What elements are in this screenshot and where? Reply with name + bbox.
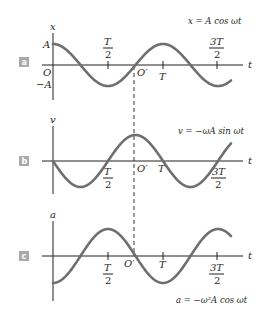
three-half-T-denominator: 2 xyxy=(215,179,221,190)
three-half-T-numerator: 3T xyxy=(210,36,224,47)
origin-label: O xyxy=(43,67,51,78)
three-half-T-denominator: 2 xyxy=(214,49,220,60)
half-T-denominator: 2 xyxy=(105,275,111,286)
T-label: T xyxy=(159,259,167,270)
three-half-T-numerator: 3T xyxy=(210,262,224,273)
badge-a-label: a xyxy=(22,58,27,67)
equation-label: x = A cos ωt xyxy=(188,16,242,26)
o-prime-label: O′ xyxy=(137,67,148,78)
half-T-numerator: T xyxy=(104,166,112,177)
badge-c-label: c xyxy=(22,252,27,261)
o-prime-label: O′ xyxy=(124,258,135,269)
t-axis-label: t xyxy=(248,250,253,261)
half-T-numerator: T xyxy=(104,36,112,47)
y-axis-label: v xyxy=(50,114,56,125)
half-T-denominator: 2 xyxy=(105,179,111,190)
y-axis-label: x xyxy=(50,21,56,32)
amplitude-positive-label: A xyxy=(42,39,50,50)
half-T-numerator: T xyxy=(104,262,112,273)
equation-label: v = −ωA sin ωt xyxy=(178,126,244,136)
y-axis-label: a xyxy=(50,209,56,220)
amplitude-negative-label: −A xyxy=(36,79,52,90)
half-T-denominator: 2 xyxy=(105,49,111,60)
panel-a-position: a x t A O −A T 2 T O′ 3T 2 x = A cos ωt xyxy=(19,16,253,100)
panel-c-acceleration: c a t T 2 O′ T 3T 2 a = −ω²A cos ωt xyxy=(19,209,253,305)
equation-label: a = −ω²A cos ωt xyxy=(176,295,248,305)
panel-b-velocity: b v t T 2 O′ T 3T 2 v = −ωA sin ωt xyxy=(19,114,253,194)
t-axis-label: t xyxy=(248,155,253,166)
shm-graphs-figure: a x t A O −A T 2 T O′ 3T 2 x = A cos ωt … xyxy=(0,0,267,325)
three-half-T-denominator: 2 xyxy=(214,275,220,286)
t-axis-label: t xyxy=(248,59,253,70)
o-prime-label: O′ xyxy=(137,163,148,174)
badge-b-label: b xyxy=(22,157,28,166)
T-label: T xyxy=(159,71,167,82)
